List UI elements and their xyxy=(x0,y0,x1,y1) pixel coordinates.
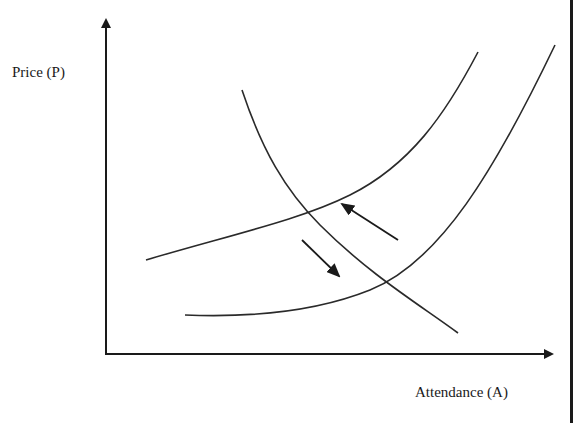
x-axis-label: Attendance (A) xyxy=(415,384,508,401)
supply-curve-lower xyxy=(185,45,555,316)
supply-curve-upper xyxy=(146,52,478,260)
y-axis-label: Price (P) xyxy=(12,64,65,81)
shift-arrow-down-right xyxy=(302,240,339,276)
shift-arrow-up-left xyxy=(342,204,398,240)
diagram-canvas xyxy=(0,0,577,423)
right-border-line xyxy=(570,0,573,423)
